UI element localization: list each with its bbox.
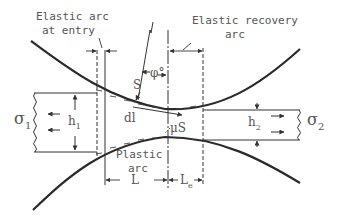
- label-h1: h1: [68, 114, 81, 131]
- recovery-arc-dimension: [170, 43, 202, 51]
- label-elastic-arc-entry-2: at entry: [42, 24, 95, 37]
- rolling-diagram: Elastic arc at entry Elastic recovery ar…: [0, 0, 343, 219]
- entry-arc-dimension: [86, 38, 117, 51]
- label-angle: φ°: [150, 66, 164, 80]
- label-plastic-1: Plastic: [116, 148, 162, 161]
- label-dl: dl: [124, 111, 136, 125]
- entry-strip: [34, 93, 98, 152]
- label-sigma2: σ2: [307, 110, 324, 132]
- label-elastic-recovery-2: arc: [225, 28, 245, 41]
- label-Le: Le: [180, 173, 193, 190]
- label-normal-force: S: [133, 78, 141, 92]
- bottom-roll-arc: [33, 137, 300, 210]
- label-L: L: [131, 173, 139, 187]
- label-elastic-arc-entry-1: Elastic arc: [36, 10, 109, 23]
- label-sigma1: σ1: [14, 109, 31, 131]
- label-friction: μS: [170, 121, 186, 135]
- label-elastic-recovery-1: Elastic recovery: [192, 14, 298, 27]
- label-h2: h2: [248, 115, 261, 132]
